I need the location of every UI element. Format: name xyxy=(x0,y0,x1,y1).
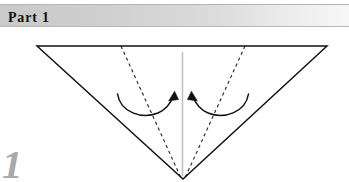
fold-arrow-right-arc xyxy=(192,94,248,115)
step-number-label: 1 xyxy=(2,144,23,182)
diagram-page: Part 1 1 xyxy=(0,0,349,182)
fold-arrow-right-head xyxy=(187,91,197,101)
page-title: Part 1 xyxy=(8,11,50,25)
origami-figure: 1 xyxy=(0,27,349,182)
fold-arrow-left-arc xyxy=(118,94,174,115)
fold-arrow-right xyxy=(187,91,248,115)
fold-arrow-left xyxy=(118,91,179,115)
fold-arrow-left-head xyxy=(169,91,179,101)
origami-diagram-svg xyxy=(0,27,349,182)
section-header-band: Part 1 xyxy=(0,4,349,27)
